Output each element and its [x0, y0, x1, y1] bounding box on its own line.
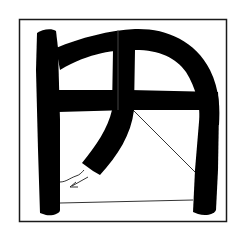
- kanji-illustration: [0, 0, 246, 228]
- kanji-drawing: [0, 0, 246, 228]
- left-vertical-stroke: [36, 29, 60, 215]
- horizontal-stroke: [58, 90, 219, 112]
